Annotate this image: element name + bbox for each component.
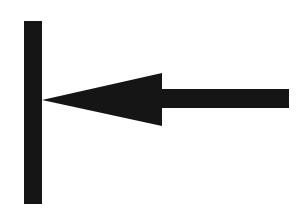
figure-canvas [0,0,301,220]
arrow-diagram-svg [0,0,301,220]
vertical-bar [24,21,42,204]
arrow-shaft [161,89,289,108]
